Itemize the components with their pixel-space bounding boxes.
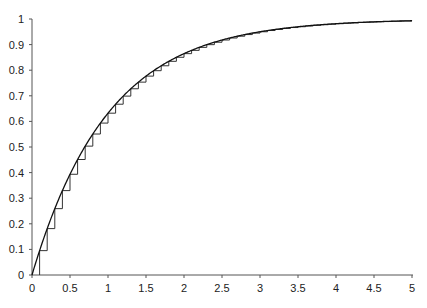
x-tick-label: 3.5 (290, 282, 305, 294)
x-tick-label: 4.5 (366, 282, 381, 294)
y-tick-label: 0.4 (9, 167, 24, 179)
x-tick-label: 2.5 (214, 282, 229, 294)
x-tick-label: 4 (333, 282, 339, 294)
y-tick-label: 0.3 (9, 192, 24, 204)
y-tick-label: 0.2 (9, 218, 24, 230)
step-series (40, 21, 412, 275)
x-axis-ticks: 00.511.522.533.544.55 (29, 275, 415, 294)
y-tick-label: 0 (18, 269, 24, 281)
axes (32, 19, 413, 275)
x-tick-label: 1 (105, 282, 111, 294)
x-tick-label: 3 (257, 282, 263, 294)
x-tick-label: 0 (29, 282, 35, 294)
y-tick-label: 0.6 (9, 115, 24, 127)
y-tick-label: 0.9 (9, 39, 24, 51)
x-tick-label: 0.5 (62, 282, 77, 294)
y-tick-label: 0.5 (9, 141, 24, 153)
x-tick-label: 5 (409, 282, 415, 294)
y-tick-label: 1 (18, 13, 24, 25)
chart: 00.511.522.533.544.55 00.10.20.30.40.50.… (0, 0, 427, 308)
curve-series (32, 21, 412, 275)
y-tick-label: 0.8 (9, 64, 24, 76)
y-tick-label: 0.1 (9, 243, 24, 255)
x-tick-label: 2 (181, 282, 187, 294)
y-axis-ticks: 00.10.20.30.40.50.60.70.80.91 (9, 13, 32, 281)
y-tick-label: 0.7 (9, 90, 24, 102)
x-tick-label: 1.5 (138, 282, 153, 294)
